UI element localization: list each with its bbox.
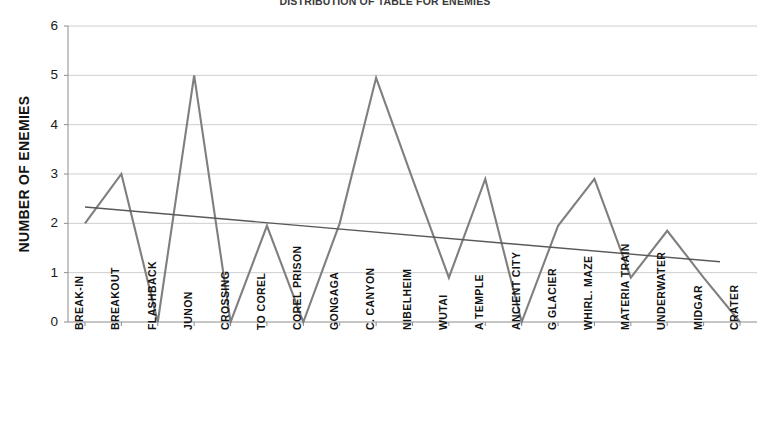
- x-tick-label: G GLACIER: [547, 268, 558, 330]
- y-tick-label: 4: [32, 118, 58, 131]
- y-tick-label: 6: [32, 19, 58, 32]
- x-tick-label: WUTAI: [438, 294, 449, 330]
- x-tick-label: ANCIENT CITY: [511, 252, 522, 330]
- x-tick-label: A TEMPLE: [474, 274, 485, 330]
- chart-container: DISTRIBUTION OF TABLE FOR ENEMIES NUMBER…: [0, 0, 770, 445]
- x-tick-label: FLASHBACK: [147, 261, 158, 330]
- x-tick-label: CRATER: [729, 285, 740, 330]
- x-tick-label: JUNON: [183, 291, 194, 330]
- y-tick-label: 0: [32, 315, 58, 328]
- x-tick-label: GONGAGA: [329, 272, 340, 330]
- x-tick-label: C. CANYON: [365, 267, 376, 330]
- y-tick-label: 3: [32, 167, 58, 180]
- x-tick-label: COREL PRISON: [292, 245, 303, 330]
- x-tick-label: WHIRL. MAZE: [583, 256, 594, 330]
- x-tick-label: MATERIA TRAIN: [620, 243, 631, 330]
- y-tick-label: 1: [32, 266, 58, 279]
- x-tick-label: CROSSING: [220, 271, 231, 330]
- x-tick-label: UNDERWATER: [656, 252, 667, 330]
- plot-area: [0, 0, 770, 445]
- x-tick-label: BREAKOUT: [110, 267, 121, 330]
- y-tick-label: 2: [32, 216, 58, 229]
- x-tick-label: NIBELHEIM: [402, 269, 413, 330]
- x-tick-label: MIDGAR: [693, 285, 704, 330]
- x-tick-label: TO COREL: [256, 273, 267, 330]
- x-tick-label: BREAK-IN: [74, 275, 85, 330]
- y-tick-label: 5: [32, 68, 58, 81]
